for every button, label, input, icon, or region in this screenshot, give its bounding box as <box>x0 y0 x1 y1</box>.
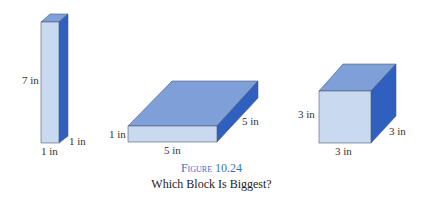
tall-block-height-label: 7 in <box>22 75 39 86</box>
tall-block-width-label: 1 in <box>41 146 58 157</box>
cube-block-depth-label: 3 in <box>389 126 406 137</box>
flat-block-height-label: 1 in <box>109 129 126 140</box>
cube-block-height-label: 3 in <box>298 109 315 120</box>
figure-subtitle: Which Block Is Biggest? <box>0 178 423 190</box>
tall-block <box>41 14 68 143</box>
figure-number-text: Figure 10.24 <box>181 161 242 175</box>
flat-block-width-label: 5 in <box>164 145 181 156</box>
cube-block-front-face <box>319 91 371 143</box>
tall-block-depth-label: 1 in <box>69 136 86 147</box>
flat-block-front-face <box>128 126 217 142</box>
cube-block <box>319 64 396 143</box>
flat-block <box>128 81 258 142</box>
figure-number: Figure 10.24 <box>0 162 423 174</box>
tall-block-side-face <box>59 14 68 143</box>
flat-block-depth-label: 5 in <box>242 116 259 127</box>
cube-block-width-label: 3 in <box>335 146 352 157</box>
tall-block-front-face <box>41 22 59 143</box>
